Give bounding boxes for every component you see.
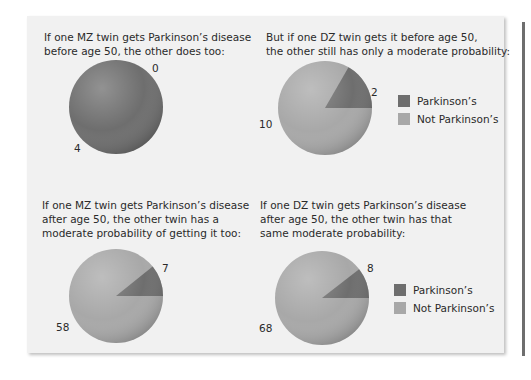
caption-line: after age 50, the other twin has a (42, 212, 249, 226)
value-label-not-parkinsons: 10 (259, 118, 272, 130)
legend-item-parkinsons: Parkinson’s (394, 281, 494, 299)
value-label-parkinsons: 7 (162, 262, 169, 274)
caption-line: If one MZ twin gets Parkinson’s disease (44, 30, 251, 44)
legend-swatch-parkinsons (394, 284, 406, 296)
caption-line: after age 50, the other twin has that (260, 212, 466, 226)
caption-line: If one DZ twin gets Parkinson’s disease (260, 198, 466, 212)
legend-label: Parkinson’s (417, 95, 477, 107)
pie-chart-dz-before-50 (275, 58, 375, 158)
legend-top: Parkinson’s Not Parkinson’s (398, 92, 498, 128)
pie-chart-mz-after-50 (66, 246, 166, 346)
caption-line: same moderate probability: (260, 226, 466, 240)
caption-line: moderate probability of getting it too: (42, 226, 249, 240)
value-label-not-parkinsons: 68 (259, 322, 272, 334)
legend-item-not-parkinsons: Not Parkinson’s (398, 110, 498, 128)
legend-bottom: Parkinson’s Not Parkinson’s (394, 281, 494, 317)
value-label-not-parkinsons: 0 (152, 62, 159, 74)
legend-item-parkinsons: Parkinson’s (398, 92, 498, 110)
legend-label: Parkinson’s (413, 284, 473, 296)
legend-label: Not Parkinson’s (413, 302, 494, 314)
side-rule (522, 22, 525, 356)
pie-chart-mz-before-50 (66, 57, 166, 157)
legend-item-not-parkinsons: Not Parkinson’s (394, 299, 494, 317)
value-label-not-parkinsons: 58 (56, 321, 69, 333)
pie-chart-dz-after-50 (272, 248, 372, 348)
value-label-parkinsons: 2 (371, 86, 378, 98)
caption-line: before age 50, the other does too: (44, 44, 251, 58)
caption-mz-before-50: If one MZ twin gets Parkinson’s disease … (44, 30, 251, 58)
legend-swatch-parkinsons (398, 95, 410, 107)
legend-label: Not Parkinson’s (417, 113, 498, 125)
legend-swatch-not-parkinsons (394, 302, 406, 314)
caption-dz-after-50: If one DZ twin gets Parkinson’s disease … (260, 198, 466, 240)
caption-dz-before-50: But if one DZ twin gets it before age 50… (266, 30, 510, 58)
caption-line: But if one DZ twin gets it before age 50… (266, 30, 510, 44)
value-label-parkinsons: 4 (74, 142, 81, 154)
legend-swatch-not-parkinsons (398, 113, 410, 125)
caption-line: If one MZ twin gets Parkinson’s disease (42, 198, 249, 212)
caption-mz-after-50: If one MZ twin gets Parkinson’s disease … (42, 198, 249, 240)
caption-line: the other still has only a moderate prob… (266, 44, 510, 58)
value-label-parkinsons: 8 (367, 262, 374, 274)
